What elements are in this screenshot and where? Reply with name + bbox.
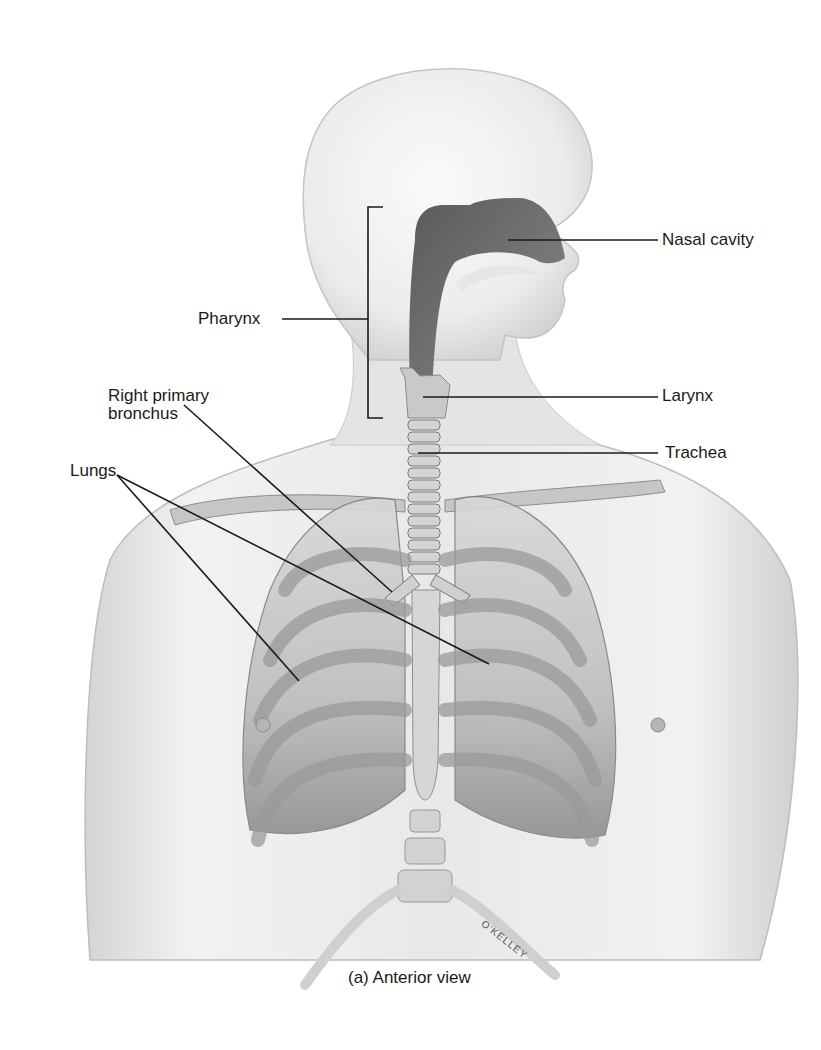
figure-caption: (a) Anterior view — [348, 968, 471, 988]
label-right-primary-bronchus-line1: Right primary — [108, 387, 209, 405]
label-trachea: Trachea — [665, 444, 727, 462]
label-larynx: Larynx — [662, 387, 713, 405]
respiratory-anatomy-illustration — [0, 0, 821, 1050]
sternum — [412, 590, 440, 800]
label-pharynx: Pharynx — [198, 310, 260, 328]
label-lungs: Lungs — [70, 462, 116, 480]
label-nasal-cavity: Nasal cavity — [662, 231, 754, 249]
label-right-primary-bronchus-line2: bronchus — [108, 405, 178, 423]
